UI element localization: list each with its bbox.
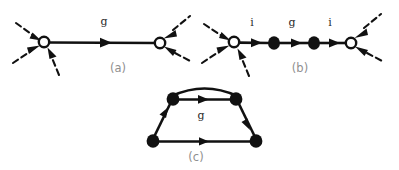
figure-container: g (a)	[0, 0, 399, 170]
panel-a: g (a)	[13, 15, 192, 75]
filled-vertex-two	[308, 36, 320, 50]
filled-vertex-bottom-left	[147, 134, 160, 148]
edge-bottom	[157, 137, 253, 145]
panel-c: g (c)	[147, 89, 263, 165]
edge-left-side	[154, 103, 171, 137]
open-vertex-right	[155, 38, 165, 48]
edge-g-mid	[278, 39, 310, 48]
leg-in-upper-left	[16, 23, 41, 41]
figure-svg: g (a)	[0, 0, 399, 170]
edge-label-i-left: i	[250, 16, 254, 29]
leg-in-bottom	[238, 49, 250, 77]
open-vertex-right	[346, 38, 356, 48]
edge-label-g: g	[197, 109, 204, 122]
filled-vertex-top-left	[167, 92, 180, 106]
open-vertex-left	[229, 37, 239, 47]
leg-in-bottom	[48, 48, 60, 76]
leg-out-upper-right	[355, 14, 382, 38]
panel-caption-a: (a)	[110, 61, 126, 75]
open-vertex-left	[39, 37, 49, 47]
leg-out-lower-right	[164, 47, 192, 63]
panel-caption-b: (b)	[292, 61, 308, 75]
leg-in-lower-left	[202, 46, 230, 64]
panel-caption-c: (c)	[188, 150, 203, 164]
leg-in-upper-left	[204, 24, 231, 41]
leg-in-lower-left	[13, 46, 40, 64]
edge-label-i-right: i	[328, 16, 332, 29]
edge-label-g-mid: g	[288, 16, 295, 29]
edge-i-right	[318, 39, 348, 48]
leg-out-upper-right	[164, 16, 191, 39]
leg-out-lower-right	[355, 47, 384, 63]
edge-right-side	[239, 103, 256, 137]
edge-top-arc	[172, 89, 237, 97]
edge-label-g: g	[100, 15, 107, 28]
edge-top-g	[177, 95, 232, 104]
edge-g	[48, 38, 156, 48]
panel-b: i g i (b)	[202, 14, 384, 76]
edge-i-left	[238, 38, 270, 47]
filled-vertex-one	[268, 36, 280, 50]
filled-vertex-top-right	[230, 92, 243, 106]
filled-vertex-bottom-right	[250, 134, 263, 148]
